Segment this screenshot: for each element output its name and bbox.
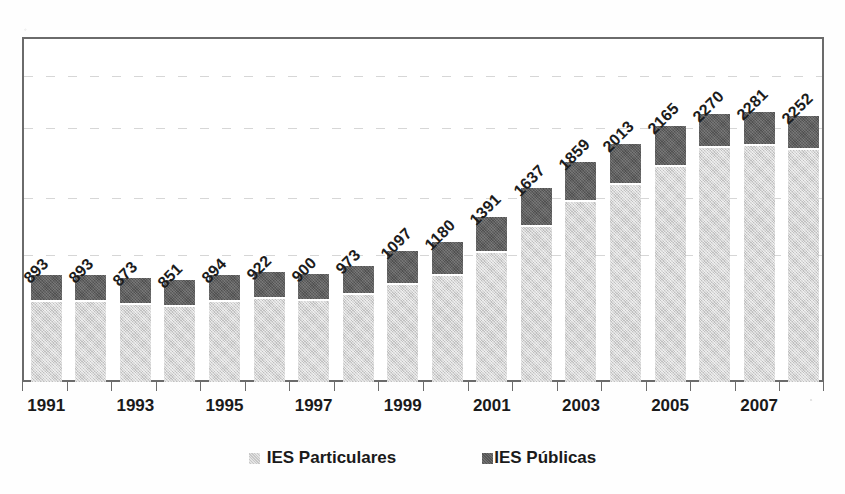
bar-2002 [521, 188, 552, 382]
x-tick-13 [601, 382, 602, 391]
x-tick-14 [646, 382, 647, 391]
legend-item-ies-publicas: IES Públicas [482, 448, 596, 468]
bar-2004 [610, 144, 641, 382]
x-tick-4 [200, 382, 201, 391]
chart-legend: IES Particulares IES Públicas [0, 448, 845, 468]
x-tick-6 [289, 382, 290, 391]
bar-1995 [209, 275, 240, 382]
x-tick-9 [423, 382, 424, 391]
x-axis-ticks [22, 382, 824, 391]
bar-segment-particulares-2007 [744, 146, 775, 382]
bar-segment-particulares-1992 [75, 302, 106, 382]
bar-segment-particulares-2006 [699, 148, 730, 382]
bar-segment-particulares-2000 [432, 276, 463, 382]
bar-1992 [75, 275, 106, 382]
bar-segment-particulares-1999 [387, 285, 418, 383]
x-tick-12 [557, 382, 558, 391]
x-tick-5 [245, 382, 246, 391]
bars-layer: 8938938738518949229009731097118013911637… [22, 37, 824, 382]
legend-swatch-icon-particulares [249, 453, 260, 464]
bar-2007 [744, 112, 775, 382]
bar-segment-particulares-1994 [164, 307, 195, 382]
x-axis-label-1991: 1991 [27, 396, 65, 416]
bar-1994 [164, 280, 195, 382]
bar-segment-particulares-2004 [610, 185, 641, 382]
stacked-bar-chart-figure: 8938938738518949229009731097118013911637… [0, 0, 845, 494]
bar-2006 [699, 114, 730, 382]
x-axis-label-1993: 1993 [116, 396, 154, 416]
bar-segment-particulares-1991 [31, 302, 62, 382]
x-axis-label-1997: 1997 [295, 396, 333, 416]
bar-segment-particulares-2001 [476, 253, 507, 382]
bar-segment-particulares-1998 [343, 295, 374, 382]
bar-segment-particulares-2002 [521, 227, 552, 382]
bar-segment-particulares-1997 [298, 301, 329, 382]
bar-1999 [387, 251, 418, 382]
bar-1997 [298, 274, 329, 382]
bar-segment-particulares-2005 [655, 167, 686, 382]
bar-segment-particulares-1996 [254, 299, 285, 382]
bar-1991 [31, 275, 62, 382]
bar-2008 [788, 116, 819, 382]
legend-swatch-icon-publicas [482, 453, 493, 464]
bar-segment-particulares-1995 [209, 302, 240, 382]
x-axis-labels: 199119931995199719992001200320052007 [22, 396, 824, 422]
bar-segment-particulares-2008 [788, 150, 819, 382]
x-tick-7 [334, 382, 335, 391]
bar-2001 [476, 217, 507, 382]
x-tick-11 [512, 382, 513, 391]
bar-1996 [254, 272, 285, 382]
x-axis-label-2005: 2005 [651, 396, 689, 416]
bar-1993 [120, 278, 151, 382]
x-axis-label-2003: 2003 [562, 396, 600, 416]
x-tick-15 [690, 382, 691, 391]
legend-item-ies-particulares: IES Particulares [249, 448, 396, 468]
x-tick-3 [156, 382, 157, 391]
x-tick-2 [111, 382, 112, 391]
x-tick-0 [22, 382, 23, 391]
bar-1998 [343, 266, 374, 382]
x-tick-10 [468, 382, 469, 391]
legend-label-publicas: IES Públicas [494, 448, 596, 468]
x-tick-17 [779, 382, 780, 391]
bar-segment-particulares-2003 [565, 202, 596, 382]
x-tick-16 [735, 382, 736, 391]
x-tick-1 [67, 382, 68, 391]
legend-label-particulares: IES Particulares [267, 448, 396, 468]
bar-2005 [655, 126, 686, 382]
bar-2003 [565, 162, 596, 382]
x-axis-label-1995: 1995 [206, 396, 244, 416]
x-axis-label-2007: 2007 [740, 396, 778, 416]
x-axis-label-2001: 2001 [473, 396, 511, 416]
x-tick-8 [378, 382, 379, 391]
x-axis-label-1999: 1999 [384, 396, 422, 416]
bar-segment-particulares-1993 [120, 305, 151, 382]
bar-2000 [432, 242, 463, 382]
x-tick-18 [823, 382, 824, 391]
